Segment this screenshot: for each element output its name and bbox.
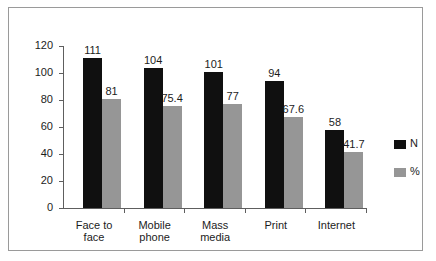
bar-value-label: 67.6	[283, 103, 304, 115]
x-tick	[245, 208, 246, 213]
x-tick	[184, 208, 185, 213]
y-tick-label: 0	[47, 201, 53, 214]
bar-n: 94	[265, 81, 284, 208]
bar-value-label: 41.7	[343, 138, 364, 150]
bar-value-label: 111	[84, 44, 101, 56]
bar-value-label: 75.4	[161, 92, 182, 104]
y-tick-label: 100	[35, 66, 53, 79]
chart-figure: 020406080100120 1118110475.4101779467.65…	[0, 0, 436, 261]
bar-value-label: 58	[329, 116, 341, 128]
bar-value-label: 94	[268, 67, 280, 79]
y-tick-label: 20	[41, 174, 53, 187]
bar-percent: 75.4	[163, 106, 182, 208]
y-tick: 60	[59, 127, 64, 128]
y-tick: 40	[59, 154, 64, 155]
y-tick-label: 120	[35, 39, 53, 52]
chart-frame: 020406080100120 1118110475.4101779467.65…	[8, 7, 423, 251]
bar-n: 104	[144, 68, 163, 208]
chart-legend: N %	[394, 138, 434, 194]
x-tick	[305, 208, 306, 213]
plot-area: 020406080100120 1118110475.4101779467.65…	[63, 46, 366, 208]
legend-item-percent: %	[394, 166, 434, 194]
bar-n: 58	[325, 130, 344, 208]
bar-value-label: 81	[105, 85, 117, 97]
x-tick	[124, 208, 125, 213]
bar-percent: 41.7	[344, 152, 363, 208]
legend-swatch-n-icon	[394, 140, 406, 149]
y-tick-label: 40	[41, 147, 53, 160]
legend-item-n: N	[394, 138, 434, 166]
y-tick: 100	[59, 73, 64, 74]
bar-percent: 81	[102, 99, 121, 208]
x-axis-line	[63, 208, 366, 209]
y-tick: 20	[59, 181, 64, 182]
bar-value-label: 77	[227, 90, 239, 102]
y-tick: 80	[59, 100, 64, 101]
bar-value-label: 104	[144, 54, 162, 66]
legend-swatch-percent-icon	[394, 168, 406, 177]
category-label: Internet	[296, 219, 376, 231]
bar-percent: 67.6	[284, 117, 303, 208]
y-tick: 120	[59, 46, 64, 47]
x-tick	[366, 208, 367, 213]
y-tick-label: 80	[41, 93, 53, 106]
bar-value-label: 101	[205, 58, 223, 70]
legend-label-n: N	[410, 136, 418, 150]
y-tick: 0	[59, 208, 64, 209]
bar-n: 111	[83, 58, 102, 208]
y-tick-label: 60	[41, 120, 53, 133]
bar-n: 101	[204, 72, 223, 208]
legend-label-percent: %	[410, 164, 420, 178]
bar-percent: 77	[223, 104, 242, 208]
